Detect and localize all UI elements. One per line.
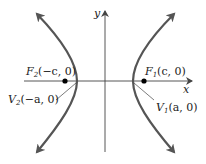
hyperbola-diagram: y x F2(−c, 0) F1(c, 0) V2(−a, 0) V1(a, 0… xyxy=(0,0,206,164)
focus-f2-point xyxy=(62,78,67,83)
v1-label: V1(a, 0) xyxy=(156,101,198,115)
y-axis-label: y xyxy=(93,7,101,20)
v2-label: V2(−a, 0) xyxy=(8,93,59,107)
f1-label: F1(c, 0) xyxy=(144,65,186,79)
left-branch-lower xyxy=(37,81,77,152)
focus-f1-point xyxy=(141,78,146,83)
x-axis-label: x xyxy=(183,83,190,96)
right-branch-lower xyxy=(133,81,174,152)
f2-label: F2(−c, 0) xyxy=(25,65,76,79)
